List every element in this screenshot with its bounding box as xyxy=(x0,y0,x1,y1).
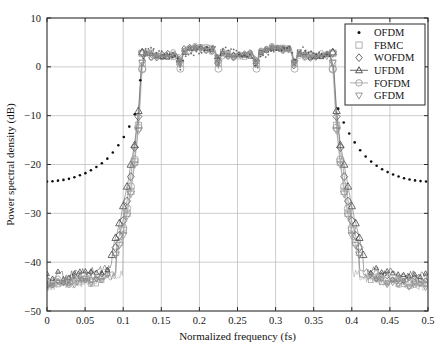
ofdm-dot xyxy=(348,132,351,135)
ofdm-dot xyxy=(95,166,98,169)
ofdm-dot xyxy=(84,172,87,175)
y-tick-label: 10 xyxy=(31,13,42,24)
ofdm-dot xyxy=(270,50,272,52)
ofdm-dot xyxy=(321,53,323,55)
y-tick-label: −30 xyxy=(25,208,41,219)
figure-container: 00.050.10.150.20.250.30.350.40.450.5100−… xyxy=(0,0,448,362)
ofdm-dot xyxy=(425,180,428,183)
ofdm-dot xyxy=(193,54,195,56)
ofdm-dot xyxy=(214,46,216,48)
ofdm-dot xyxy=(323,56,325,58)
ofdm-dot xyxy=(195,51,197,53)
ofdm-dot xyxy=(166,52,168,54)
ofdm-dot xyxy=(233,49,235,51)
ofdm-dot xyxy=(79,174,82,177)
x-tick-label: 0.05 xyxy=(76,315,94,326)
ofdm-dot xyxy=(329,55,331,57)
ofdm-dot xyxy=(408,178,411,181)
ofdm-dot xyxy=(106,157,109,160)
ofdm-dot xyxy=(112,151,115,154)
legend-label: WOFDM xyxy=(374,52,415,63)
ofdm-dot xyxy=(150,47,152,49)
ofdm-dot xyxy=(222,48,224,50)
x-tick-label: 0.35 xyxy=(305,315,323,326)
ofdm-dot xyxy=(206,46,208,48)
ofdm-dot xyxy=(198,53,200,55)
ofdm-dot xyxy=(353,141,356,144)
ofdm-dot xyxy=(235,50,237,52)
ofdm-dot xyxy=(375,164,378,167)
ofdm-dot xyxy=(262,54,264,56)
ofdm-dot xyxy=(241,55,243,57)
ofdm-dot xyxy=(230,48,232,50)
ofdm-dot xyxy=(281,50,283,52)
ofdm-dot xyxy=(133,113,136,116)
ofdm-dot xyxy=(147,48,149,50)
ofdm-dot xyxy=(302,46,304,48)
ofdm-dot xyxy=(155,52,157,54)
ofdm-dot xyxy=(209,49,211,51)
ofdm-dot xyxy=(267,54,269,56)
ofdm-dot xyxy=(171,57,173,59)
x-axis-label: Normalized frequency (fs) xyxy=(179,330,296,343)
ofdm-dot xyxy=(163,54,165,56)
ofdm-dot xyxy=(246,56,248,58)
x-tick-label: 0.15 xyxy=(152,315,170,326)
ofdm-dot xyxy=(73,176,76,179)
ofdm-dot xyxy=(101,162,104,165)
ofdm-dot xyxy=(359,149,362,152)
x-tick-label: 0 xyxy=(44,315,49,326)
ofdm-dot xyxy=(219,54,221,56)
ofdm-dot xyxy=(57,179,60,182)
ofdm-dot xyxy=(169,54,171,56)
ofdm-dot xyxy=(337,107,340,110)
ofdm-dot xyxy=(161,50,163,52)
ofdm-dot xyxy=(294,59,296,61)
ofdm-dot xyxy=(243,55,245,57)
legend-label: GFDM xyxy=(374,90,405,101)
ofdm-dot xyxy=(403,177,406,180)
ofdm-dot xyxy=(305,50,307,52)
ofdm-dot xyxy=(297,50,299,52)
ofdm-dot xyxy=(201,52,203,54)
x-tick-label: 0.2 xyxy=(193,315,206,326)
ofdm-dot xyxy=(392,173,395,176)
ofdm-dot xyxy=(273,51,275,53)
ofdm-dot xyxy=(275,49,277,51)
ofdm-dot xyxy=(419,180,422,183)
ofdm-dot xyxy=(286,47,288,49)
x-tick-label: 0.4 xyxy=(345,315,359,326)
marker-dot xyxy=(358,31,361,34)
ofdm-dot xyxy=(249,53,251,55)
y-tick-label: −20 xyxy=(25,159,41,170)
ofdm-dot xyxy=(123,136,126,139)
ofdm-dot xyxy=(142,57,144,59)
ofdm-dot xyxy=(278,50,280,52)
ofdm-dot xyxy=(259,56,261,58)
y-tick-label: −50 xyxy=(25,306,41,317)
ofdm-dot xyxy=(307,52,309,54)
ofdm-dot xyxy=(299,50,301,52)
x-tick-label: 0.45 xyxy=(381,315,399,326)
x-tick-label: 0.1 xyxy=(117,315,130,326)
ofdm-dot xyxy=(364,155,367,158)
ofdm-dot xyxy=(217,57,219,59)
ofdm-dot xyxy=(342,121,345,124)
ofdm-dot xyxy=(145,48,147,50)
ofdm-dot xyxy=(139,79,142,82)
ofdm-dot xyxy=(174,55,176,57)
ofdm-dot xyxy=(90,169,93,172)
ofdm-dot xyxy=(179,69,181,71)
ofdm-dot xyxy=(257,67,259,69)
legend-label: UFDM xyxy=(374,65,405,76)
y-tick-label: 0 xyxy=(36,61,41,72)
x-tick-label: 0.5 xyxy=(421,315,434,326)
ofdm-dot xyxy=(68,178,71,181)
ofdm-dot xyxy=(190,52,192,54)
ofdm-dot xyxy=(289,46,291,48)
legend-label: OFDM xyxy=(374,27,405,38)
ofdm-dot xyxy=(128,125,131,128)
ofdm-dot xyxy=(251,57,253,59)
ofdm-dot xyxy=(313,52,315,54)
ofdm-dot xyxy=(211,46,213,48)
